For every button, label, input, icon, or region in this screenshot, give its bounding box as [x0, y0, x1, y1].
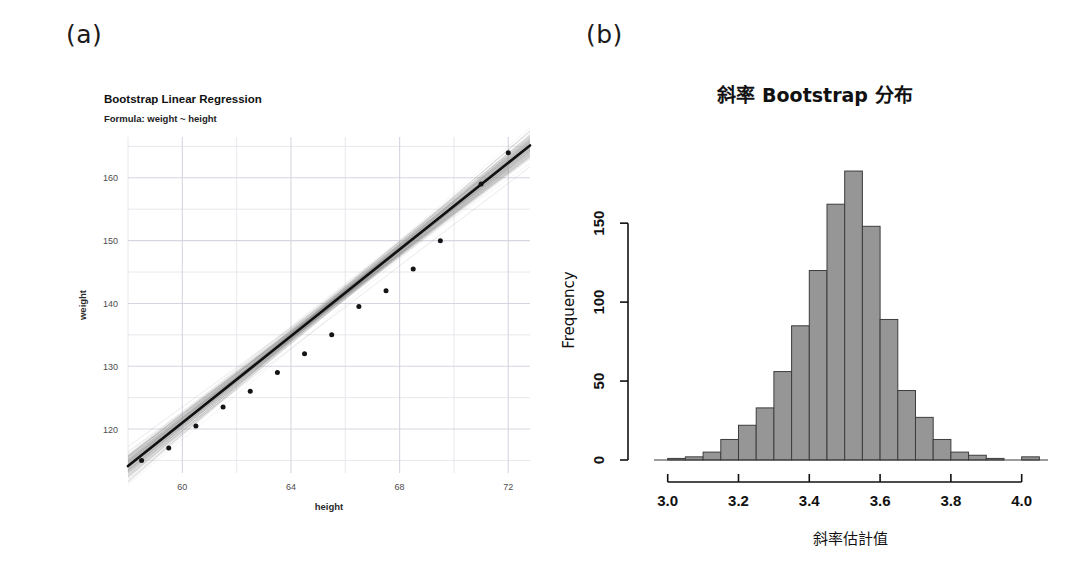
- histogram-bar: [862, 226, 880, 460]
- histogram-y-tick-150: 150: [590, 211, 607, 236]
- scatter-y-axis-title: weight: [77, 289, 88, 321]
- histogram-x-axis-title: 斜率估計值: [813, 530, 888, 548]
- histogram-bar: [915, 417, 933, 460]
- histogram-y-axis-title: Frequency: [560, 271, 578, 349]
- scatter-x-tick-64: 64: [286, 482, 296, 492]
- histogram-y-tick-labels: 050100150: [590, 211, 607, 465]
- scatter-y-tick-120: 120: [103, 425, 118, 435]
- histogram-x-tick-4.0: 4.0: [1011, 492, 1032, 509]
- scatter-title: Bootstrap Linear Regression: [104, 93, 262, 105]
- panel-label-a: (a): [66, 20, 102, 49]
- histogram-bars: [668, 171, 1040, 460]
- histogram-bar: [809, 271, 827, 460]
- scatter-x-axis-title: height: [315, 501, 344, 512]
- scatter-y-tick-150: 150: [103, 236, 118, 246]
- histogram-y-tick-0: 0: [590, 456, 607, 464]
- histogram-bar: [969, 455, 987, 460]
- histogram-figure: 斜率 Bootstrap 分布 3.03.23.43.63.84.0 05010…: [560, 40, 1070, 550]
- histogram-x-tick-3.0: 3.0: [657, 492, 678, 509]
- histogram-bar: [880, 319, 898, 460]
- scatter-y-tick-130: 130: [103, 362, 118, 372]
- histogram-bar: [703, 452, 721, 460]
- scatter-y-tick-140: 140: [103, 299, 118, 309]
- scatter-plot-figure: Bootstrap Linear Regression Formula: wei…: [60, 75, 550, 545]
- histogram-bar: [774, 372, 792, 460]
- histogram-y-tick-50: 50: [590, 373, 607, 390]
- histogram-bar: [721, 439, 739, 460]
- histogram-bar: [933, 439, 951, 460]
- histogram-x-tick-labels: 3.03.23.43.63.84.0: [657, 492, 1032, 509]
- scatter-subtitle: Formula: weight ~ height: [104, 113, 218, 124]
- histogram-bar: [792, 326, 810, 460]
- histogram-bar: [898, 391, 916, 460]
- histogram-x-tick-3.2: 3.2: [728, 492, 749, 509]
- histogram-x-tick-3.6: 3.6: [870, 492, 891, 509]
- histogram-bar: [738, 425, 756, 460]
- histogram-x-tick-3.8: 3.8: [940, 492, 961, 509]
- histogram-bar: [951, 452, 969, 460]
- scatter-x-tick-72: 72: [503, 482, 513, 492]
- histogram-x-tick-3.4: 3.4: [799, 492, 821, 509]
- histogram-bar: [827, 204, 845, 460]
- histogram-y-tick-100: 100: [590, 290, 607, 315]
- scatter-x-tick-labels: 60646872: [177, 482, 513, 492]
- histogram-bar: [756, 408, 774, 460]
- scatter-x-tick-68: 68: [395, 482, 405, 492]
- scatter-y-tick-labels: 120130140150160: [103, 173, 118, 434]
- scatter-plot-svg: Bootstrap Linear Regression Formula: wei…: [60, 75, 550, 545]
- histogram-title: 斜率 Bootstrap 分布: [716, 84, 912, 106]
- scatter-y-tick-160: 160: [103, 173, 118, 183]
- histogram-svg: 斜率 Bootstrap 分布 3.03.23.43.63.84.0 05010…: [560, 40, 1070, 550]
- histogram-bar: [845, 171, 863, 460]
- scatter-x-tick-60: 60: [177, 482, 187, 492]
